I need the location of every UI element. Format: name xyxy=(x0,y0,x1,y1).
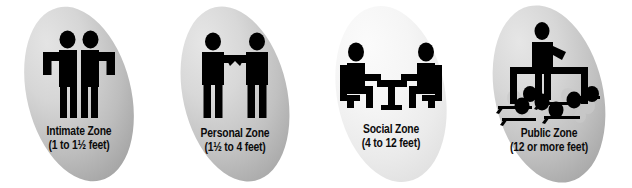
zone-title: Public Zone xyxy=(481,126,617,140)
two-people-at-table-icon xyxy=(339,42,443,116)
zone-title: Social Zone xyxy=(323,122,459,136)
zone-distance: (1 to 1½ feet) xyxy=(11,138,147,153)
zone-panel-intimate: Intimate Zone (1 to 1½ feet) xyxy=(0,0,158,188)
two-people-handshake-icon xyxy=(194,32,276,122)
zone-content-social: Social Zone (4 to 12 feet) xyxy=(312,0,470,188)
zone-labels-public: Public Zone (12 or more feet) xyxy=(470,126,628,155)
two-people-embracing-icon xyxy=(39,30,119,122)
proxemic-zones-diagram: Intimate Zone (1 to 1½ feet) xyxy=(0,0,632,188)
zone-content-personal: Personal Zone (1½ to 4 feet) xyxy=(156,0,314,188)
zone-content-public: Public Zone (12 or more feet) xyxy=(470,0,628,188)
zone-content-intimate: Intimate Zone (1 to 1½ feet) xyxy=(0,0,158,188)
zone-distance: (4 to 12 feet) xyxy=(323,136,459,151)
zone-labels-social: Social Zone (4 to 12 feet) xyxy=(312,122,470,151)
zone-panel-social: Social Zone (4 to 12 feet) xyxy=(312,0,470,188)
zone-panel-public: Public Zone (12 or more feet) xyxy=(470,0,628,188)
zone-distance: (12 or more feet) xyxy=(481,140,617,155)
speaker-with-audience-icon xyxy=(496,22,602,132)
zone-title: Personal Zone xyxy=(167,126,303,140)
zone-labels-personal: Personal Zone (1½ to 4 feet) xyxy=(156,126,314,155)
zone-panel-personal: Personal Zone (1½ to 4 feet) xyxy=(156,0,314,188)
zone-labels-intimate: Intimate Zone (1 to 1½ feet) xyxy=(0,124,158,153)
zone-distance: (1½ to 4 feet) xyxy=(167,140,303,155)
zone-title: Intimate Zone xyxy=(11,124,147,138)
